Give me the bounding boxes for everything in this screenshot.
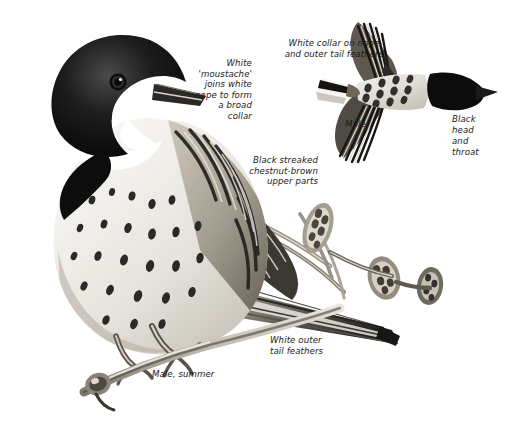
flight-black-head — [427, 72, 498, 110]
male-in-flight-bird — [316, 22, 498, 162]
bill — [152, 84, 206, 106]
bird-plate-artwork — [0, 0, 508, 423]
illustration-plate: White 'moustache' joins white nape to fo… — [0, 0, 508, 423]
eye — [110, 74, 127, 91]
reed-seed-heads — [297, 199, 446, 307]
